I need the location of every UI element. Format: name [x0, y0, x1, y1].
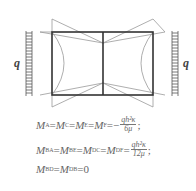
equation-middle-column-moments: MBD= MDB= 0	[36, 163, 89, 175]
load-label-right: q	[183, 56, 189, 71]
distributed-load-left	[26, 31, 32, 96]
distributed-load-right	[172, 31, 178, 96]
equation-corner-moments: MA= MC= ME= MF= − qh²κ6μ ;	[36, 116, 140, 133]
load-label-left: q	[14, 56, 20, 71]
portal-frame	[52, 32, 153, 95]
equation-joint-moments: MBA= MBE= MDC= MDF= qh²κ12μ ;	[36, 141, 151, 158]
frame-moment-diagram	[0, 0, 196, 191]
